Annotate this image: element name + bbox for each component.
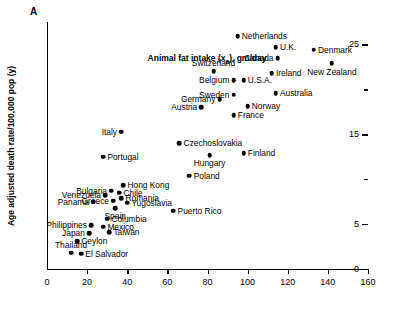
data-point [101,224,106,229]
data-point-label: Czechoslovakia [184,139,243,147]
data-point [231,92,236,97]
x-tick-60 [167,269,168,274]
data-point [113,206,118,211]
data-point-label: Finland [248,149,275,157]
x-tick-140 [328,269,329,274]
data-point [245,104,250,109]
data-point [273,45,278,50]
data-point [235,34,240,39]
y-tick-20 [364,89,368,90]
x-tick-label-100: 100 [240,277,255,287]
data-point [119,129,124,134]
data-point-label: Poland [194,171,220,179]
data-point [177,141,182,146]
x-tick-label-0: 0 [44,277,49,287]
data-point [69,251,74,256]
y-tick-25 [362,44,368,45]
data-point [111,198,116,203]
data-point-label: Yugoslavia [131,198,172,206]
y-tick-15 [362,134,368,135]
scatter-plot-figure: A Age adjusted death rate/100,000 pop (y… [0,0,409,310]
data-point [231,78,236,83]
data-point [119,196,124,201]
x-tick-label-40: 40 [122,277,132,287]
data-point [89,223,94,228]
data-point [275,56,280,61]
data-point [187,173,192,178]
data-point-label: El Salvador [85,250,128,258]
data-point-label: Austria [171,103,197,111]
data-point-label: Taiwan [113,228,139,236]
data-point [199,105,204,110]
data-point [171,208,176,213]
x-tick-100 [248,269,249,274]
y-tick-label-15: 15 [349,129,359,139]
x-tick-80 [208,269,209,274]
data-point-label: Italy [102,127,117,135]
data-point [117,190,122,195]
data-point [79,251,84,256]
x-tick-120 [288,269,289,274]
x-tick-40 [127,269,128,274]
y-axis-title: Age adjusted death rate/100,000 pop (y) [6,66,16,226]
x-tick-label-80: 80 [202,277,212,287]
x-tick-label-60: 60 [162,277,172,287]
data-point [241,78,246,83]
y-tick-label-0: 0 [354,264,359,274]
data-point [241,151,246,156]
data-point-label: New Zealand [307,68,356,76]
y-tick-10 [364,179,368,180]
data-point [91,199,96,204]
data-point [217,97,222,102]
data-point-label: Belgium [199,76,229,84]
x-tick-160 [368,269,369,274]
data-point-label: France [238,111,264,119]
x-tick-label-120: 120 [280,277,295,287]
data-point [211,69,216,74]
plot-area: Age adjusted death rate/100,000 pop (y) … [47,22,368,269]
data-point-label: Ireland [276,69,302,77]
panel-letter: A [30,6,38,17]
data-point-label: Australia [280,89,313,97]
data-point-label: Switzerland [192,59,235,67]
x-tick-label-140: 140 [320,277,335,287]
data-point-label: Canada [244,54,273,62]
data-point-label: Thailand [55,240,87,248]
data-point-label: Hungary [194,159,226,167]
data-point [101,154,106,159]
data-point [273,91,278,96]
y-tick-label-5: 5 [354,219,359,229]
data-point-label: Portugal [107,153,138,161]
data-point [312,48,317,53]
data-point [330,61,335,66]
x-tick-label-160: 160 [360,277,375,287]
data-point [105,216,110,221]
y-tick-5 [362,224,368,225]
data-point [125,200,130,205]
data-point [107,230,112,235]
data-point [109,189,114,194]
data-point [231,113,236,118]
data-point-label: Netherlands [242,32,287,40]
data-point-label: Puerto Rico [178,206,222,214]
data-point [87,231,92,236]
data-point-label: Panama [58,197,89,205]
data-point-label: U.S.A. [248,76,272,84]
data-point [207,153,212,158]
x-tick-20 [87,269,88,274]
data-point-label: U.K. [280,43,296,51]
data-point-label: Denmark [318,46,352,54]
x-tick-label-20: 20 [82,277,92,287]
